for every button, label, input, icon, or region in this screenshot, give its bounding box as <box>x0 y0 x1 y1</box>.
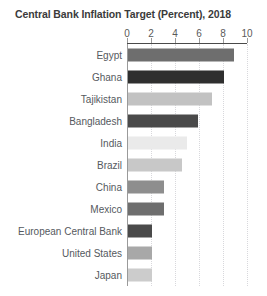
chart-container: Central Bank Inflation Target (Percent),… <box>0 0 267 296</box>
x-tick-mark <box>223 38 224 43</box>
chart-row: Tajikistan <box>0 88 267 110</box>
category-label: India <box>0 138 122 149</box>
bar <box>128 225 152 238</box>
category-label: Bangladesh <box>0 116 122 127</box>
category-label: Brazil <box>0 160 122 171</box>
bar <box>128 115 198 128</box>
x-tick-mark <box>127 38 128 43</box>
category-label: United States <box>0 248 122 259</box>
chart-row: Egypt <box>0 44 267 66</box>
category-label: European Central Bank <box>0 226 122 237</box>
bar <box>128 137 187 150</box>
category-label: Egypt <box>0 50 122 61</box>
chart-row: Brazil <box>0 154 267 176</box>
chart-row: Bangladesh <box>0 110 267 132</box>
category-label: Tajikistan <box>0 94 122 105</box>
x-tick-mark <box>247 38 248 43</box>
x-tick-mark <box>199 38 200 43</box>
chart-row: European Central Bank <box>0 220 267 242</box>
category-label: Ghana <box>0 72 122 83</box>
x-axis-tick-labels: 0246810 <box>0 28 267 42</box>
chart-title: Central Bank Inflation Target (Percent),… <box>0 8 246 20</box>
bar <box>128 269 152 282</box>
chart-row: India <box>0 132 267 154</box>
bar <box>128 203 164 216</box>
chart-row: Mexico <box>0 198 267 220</box>
bar <box>128 159 182 172</box>
bar <box>128 49 234 62</box>
bar-rows: EgyptGhanaTajikistanBangladeshIndiaBrazi… <box>0 44 267 286</box>
category-label: Japan <box>0 270 122 281</box>
chart-row: United States <box>0 242 267 264</box>
chart-row: Japan <box>0 264 267 286</box>
chart-row: Ghana <box>0 66 267 88</box>
category-label: China <box>0 182 122 193</box>
bar <box>128 71 224 84</box>
x-tick-mark <box>175 38 176 43</box>
category-label: Mexico <box>0 204 122 215</box>
bar <box>128 247 152 260</box>
bar <box>128 181 164 194</box>
chart-row: China <box>0 176 267 198</box>
x-tick-mark <box>151 38 152 43</box>
bar <box>128 93 212 106</box>
